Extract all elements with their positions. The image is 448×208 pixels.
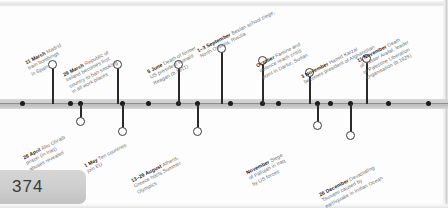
timeline-tick-dot: [276, 101, 281, 106]
event-marker-icon: [193, 127, 202, 136]
event-marker-icon: [346, 131, 355, 140]
event-marker-icon: [76, 117, 85, 126]
timeline-tick-dot: [328, 101, 333, 106]
page-scan-edge-top: [0, 0, 448, 7]
timeline-tick-dot: [386, 101, 391, 106]
event-stem: [350, 104, 352, 134]
timeline-tick-dot: [426, 101, 431, 106]
timeline-tick-dot: [146, 101, 151, 106]
event-label: 28 April Abu Ghraibprison (in Iraq)abuse…: [22, 134, 72, 172]
timeline-tick-dot: [228, 101, 233, 106]
event-stem: [52, 64, 54, 104]
event-label: November Siegeof Fallujah in Iraqby US f…: [245, 152, 289, 187]
event-marker-icon: [118, 127, 127, 136]
event-description-line: North Ossetia, Russia: [199, 15, 279, 60]
event-label: 13–29 August Athens,Greece hosts SummerO…: [130, 154, 185, 195]
event-label: 1–3 September Beslan school siege,North …: [196, 9, 279, 59]
scanned-book-page: 11 March Madridtrain bombingsin Spain29 …: [0, 0, 448, 208]
event-label: 29 March Republic ofIreland becomes firs…: [62, 48, 122, 95]
event-label: 26 December DevastatingTsunami caused by…: [318, 163, 384, 208]
event-label: 5 June Death of formerUS president Ronal…: [146, 44, 203, 86]
event-stem: [221, 48, 223, 104]
event-label: 1 May Ten countriesjoin EU: [83, 142, 130, 175]
timeline-tick-dot: [20, 101, 25, 106]
event-marker-icon: [313, 121, 322, 130]
page-number-tab: 374: [0, 170, 86, 204]
page-number: 374: [12, 177, 43, 197]
timeline-tick-dot: [68, 101, 73, 106]
